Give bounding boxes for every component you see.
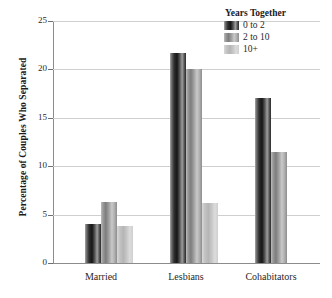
bar-married-2-to-10 <box>101 202 117 263</box>
legend-swatch-icon-10-plus <box>224 45 239 54</box>
y-tick-label-20: 20 <box>25 63 47 73</box>
y-tick-0 <box>48 263 53 264</box>
plot-area: 25 20 15 10 5 0 Married Lesbians Cohabit… <box>53 21 320 264</box>
y-tick-label-0: 0 <box>25 257 47 267</box>
legend-label-10-plus: 10+ <box>243 45 258 54</box>
bar-lesbians-0-to-2 <box>170 53 186 263</box>
y-axis-line <box>53 21 54 264</box>
legend-label-2-to-10: 2 to 10 <box>243 33 269 42</box>
bar-chart: Percentage of Couples Who Separated 25 2… <box>0 0 332 298</box>
legend-item-2-to-10: 2 to 10 <box>224 32 330 43</box>
y-tick-label-10: 10 <box>25 160 47 170</box>
bar-married-10-plus <box>117 226 133 263</box>
bar-married-0-to-2 <box>85 224 101 263</box>
bar-lesbians-10-plus <box>202 203 218 263</box>
y-tick-label-15: 15 <box>25 112 47 122</box>
legend-label-0-to-2: 0 to 2 <box>243 21 265 30</box>
legend-swatch-icon-2-to-10 <box>224 33 239 42</box>
bar-cohabitators-2-to-10 <box>271 152 287 263</box>
bar-lesbians-2-to-10 <box>186 69 202 263</box>
y-tick-label-5: 5 <box>25 209 47 219</box>
x-axis-line <box>53 263 320 264</box>
x-label-cohabitators: Cohabitators <box>216 271 326 282</box>
bar-cohabitators-0-to-2 <box>255 98 271 263</box>
y-tick-20 <box>48 69 53 70</box>
legend-title: Years Together <box>224 8 330 18</box>
y-tick-label-25: 25 <box>25 15 47 25</box>
y-tick-15 <box>48 118 53 119</box>
legend-swatch-icon-0-to-2 <box>224 21 239 30</box>
legend-item-10-plus: 10+ <box>224 44 330 55</box>
y-tick-25 <box>48 21 53 22</box>
y-tick-5 <box>48 215 53 216</box>
legend-item-0-to-2: 0 to 2 <box>224 20 330 31</box>
legend: Years Together 0 to 2 2 to 10 10+ <box>224 8 330 56</box>
y-tick-10 <box>48 166 53 167</box>
